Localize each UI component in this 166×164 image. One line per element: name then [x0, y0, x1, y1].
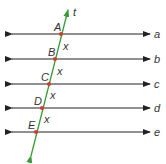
label-line-a: a: [154, 28, 160, 40]
parallel-lines: [12, 34, 150, 132]
label-segment-cd: x: [49, 89, 56, 101]
label-line-d: d: [154, 102, 161, 114]
label-line-b: b: [154, 53, 160, 65]
label-segment-ab: x: [62, 40, 69, 52]
label-line-e: e: [154, 126, 160, 138]
parallel-lines-diagram: t a b c d e A B C D E x x x x: [0, 0, 166, 164]
label-segment-de: x: [43, 113, 50, 125]
label-segment-bc: x: [56, 65, 63, 77]
labels: t a b c d e A B C D E x x x x: [28, 6, 161, 138]
label-line-c: c: [154, 78, 160, 90]
label-point-c: C: [41, 71, 49, 83]
label-point-a: A: [53, 21, 61, 33]
label-t: t: [73, 6, 77, 18]
label-point-b: B: [48, 46, 55, 58]
label-point-d: D: [34, 95, 42, 107]
label-point-e: E: [28, 119, 36, 131]
